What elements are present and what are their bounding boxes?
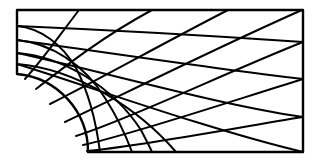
plate-domain-fill xyxy=(17,10,303,152)
mesh-canvas xyxy=(0,0,320,165)
mesh-figure xyxy=(0,0,320,165)
